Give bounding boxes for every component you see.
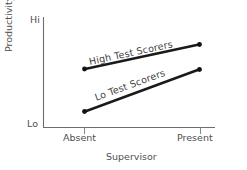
y-tick-label-lo: Lo bbox=[27, 119, 38, 129]
series-point-lo-absent bbox=[82, 109, 87, 114]
series-point-high-absent bbox=[82, 67, 87, 72]
y-tick-label-hi: Hi bbox=[30, 15, 40, 25]
productivity-supervisor-chart: Productivity Hi Lo Absent Present Superv… bbox=[0, 0, 247, 170]
y-axis-title: Productivity bbox=[4, 0, 14, 52]
x-axis-title: Supervisor bbox=[106, 152, 157, 162]
series-point-high-present bbox=[197, 42, 202, 47]
x-tick-label-absent: Absent bbox=[63, 133, 96, 143]
series-point-lo-present bbox=[197, 67, 202, 72]
x-tick-label-present: Present bbox=[177, 133, 213, 143]
